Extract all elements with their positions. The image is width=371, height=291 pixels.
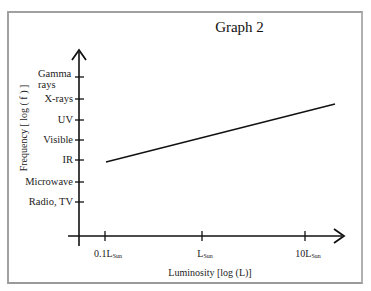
y-tick-label-microwave: Microwave <box>25 176 73 187</box>
y-tick-label-uv: UV <box>58 114 73 125</box>
x-tick-label-10-lsun: 10LSun <box>295 248 320 259</box>
y-axis-title: Frequency [ log ( f ) ] <box>18 85 29 172</box>
x-axis-title: Luminosity [log (L)] <box>168 267 251 278</box>
y-tick-label-radio-tv: Radio, TV <box>29 196 73 207</box>
y-tick-label-gamma: Gammarays <box>38 68 71 90</box>
x-tick-label-lsun: LSun <box>197 248 212 259</box>
y-tick-label-ir: IR <box>63 154 74 165</box>
data-line <box>106 104 335 162</box>
y-tick-label-xrays: X-rays <box>44 93 73 104</box>
y-tick-label-visible: Visible <box>43 134 73 145</box>
x-tick-label-0-1-lsun: 0.1LSun <box>94 248 122 259</box>
